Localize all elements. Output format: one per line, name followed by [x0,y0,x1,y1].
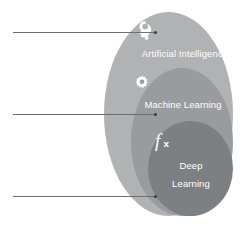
leader-line-deep-learning [13,196,155,197]
leader-dot-artificial-intelligence [154,31,157,34]
leader-dot-machine-learning [154,113,157,116]
leader-dot-deep-learning [154,195,157,198]
venn-clip-area: Artificial Intelligence Machine Learning… [0,0,247,234]
leader-line-artificial-intelligence [13,32,155,33]
ring-deep-learning[interactable] [148,121,233,216]
leader-line-machine-learning [13,114,155,115]
diagram-canvas: Artificial Intelligence Machine Learning… [0,0,247,234]
